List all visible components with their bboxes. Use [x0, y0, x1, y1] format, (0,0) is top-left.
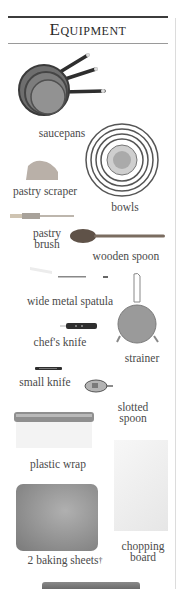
label-chopping-board: chopping board: [118, 541, 168, 563]
label-baking-sheets: 2 baking sheets†: [20, 555, 110, 566]
saucepans-image: [16, 50, 106, 120]
label-slotted-spoon: slotted spoon: [110, 402, 156, 424]
label-small-knife: small knife: [14, 377, 76, 388]
chopping-board-image: [114, 440, 168, 531]
label-chefs-knife: chef's knife: [28, 337, 92, 348]
pastry-brush-image: [10, 212, 75, 220]
baking-sheets-image: [16, 484, 98, 551]
chefs-knife-image: [60, 322, 98, 330]
slotted-spoon-image: [84, 378, 114, 394]
column-divider: [175, 18, 176, 589]
wide-metal-spatula-image: [28, 265, 113, 281]
strainer-image: [116, 272, 160, 350]
footnote-mark: †: [98, 556, 102, 565]
header-rule-bottom: [8, 43, 168, 44]
label-wooden-spoon: wooden spoon: [84, 251, 168, 262]
label-wide-metal-spatula: wide metal spatula: [20, 296, 120, 307]
label-strainer: strainer: [118, 353, 166, 364]
label-pastry-brush: pastry brush: [22, 228, 72, 250]
page-title: Equipment: [8, 20, 168, 40]
plastic-wrap-image: [12, 410, 96, 450]
small-knife-image: [35, 366, 63, 371]
partial-equipment-image: [42, 582, 140, 589]
label-bowls: bowls: [100, 202, 150, 213]
bowls-image: [84, 122, 160, 198]
label-plastic-wrap: plastic wrap: [22, 459, 94, 470]
pastry-scraper-image: [24, 160, 60, 182]
header-rule-top: [8, 16, 168, 18]
wooden-spoon-image: [70, 228, 166, 244]
label-pastry-scraper: pastry scraper: [0, 186, 90, 197]
